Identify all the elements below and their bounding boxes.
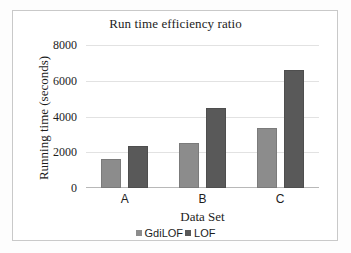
bar[interactable]	[128, 146, 148, 188]
chart-legend: GdiLOFLOF	[0, 227, 351, 239]
y-tick-label: 4000	[33, 109, 77, 124]
legend-label: LOF	[194, 227, 215, 239]
x-tick-label: C	[246, 192, 314, 210]
bar[interactable]	[101, 159, 121, 188]
y-tick-label: 6000	[33, 73, 77, 88]
x-tick-label: B	[168, 192, 236, 210]
bar[interactable]	[179, 143, 199, 188]
y-tick-label: 8000	[33, 38, 77, 53]
x-tick-label: A	[91, 192, 159, 210]
legend-item[interactable]: LOF	[185, 227, 215, 239]
y-tick-label: 2000	[33, 145, 77, 160]
bar[interactable]	[284, 70, 304, 188]
plot-area	[86, 45, 319, 188]
x-axis-title: Data Set	[86, 209, 319, 225]
bar-group	[246, 45, 314, 188]
legend-swatch-icon	[136, 230, 142, 236]
legend-label: GdiLOF	[145, 227, 184, 239]
y-axis-ticks: 02000400060008000	[33, 0, 77, 253]
y-tick-label: 0	[33, 181, 77, 196]
legend-item[interactable]: GdiLOF	[136, 227, 184, 239]
x-axis-ticks: ABC	[86, 192, 319, 210]
chart-figure: Run time efficiency ratio Running time (…	[0, 0, 351, 253]
bar-group	[91, 45, 159, 188]
bar[interactable]	[257, 128, 277, 188]
legend-swatch-icon	[185, 230, 191, 236]
bar-groups	[86, 45, 319, 188]
bar[interactable]	[206, 108, 226, 188]
bar-group	[168, 45, 236, 188]
